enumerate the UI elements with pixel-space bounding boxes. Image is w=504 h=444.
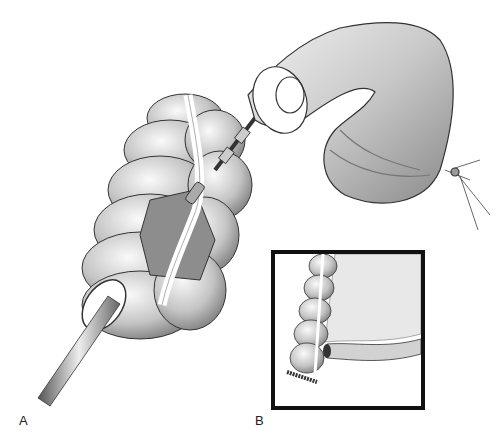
panel-b-drawing xyxy=(275,254,421,406)
panel-label-a: A xyxy=(19,413,28,428)
colon-segment xyxy=(73,94,252,339)
ileum-loop xyxy=(244,22,490,230)
panel-a-drawing xyxy=(0,0,504,444)
panel-label-b: B xyxy=(255,413,264,428)
surgical-illustration: A B xyxy=(0,0,504,444)
inset-panel-b xyxy=(271,250,425,410)
stapler-rod xyxy=(38,296,120,406)
